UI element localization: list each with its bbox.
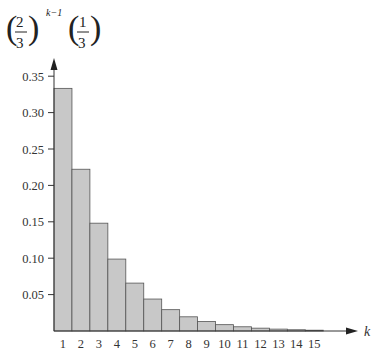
bar	[108, 259, 126, 331]
bar-chart: 0.050.100.150.200.250.300.35 12345678910…	[0, 0, 389, 364]
bars-group	[54, 88, 323, 331]
x-tick-label: 10	[218, 337, 231, 351]
x-tick-label: 15	[308, 337, 321, 351]
y-tick-label: 0.30	[22, 106, 44, 120]
x-tick-label: 7	[168, 337, 174, 351]
x-tick-label: 11	[236, 337, 248, 351]
y-axis: 0.050.100.150.200.250.300.35	[22, 58, 57, 331]
bar	[180, 317, 198, 331]
x-tick-label: 4	[114, 337, 121, 351]
x-axis-label: k	[364, 324, 371, 339]
x-tick-label: 9	[203, 337, 209, 351]
y-axis-arrow-icon	[51, 58, 58, 70]
y-tick-label: 0.20	[22, 179, 44, 193]
y-tick-label: 0.10	[22, 252, 44, 266]
x-tick-label: 3	[96, 337, 102, 351]
y-tick-label: 0.25	[22, 143, 44, 157]
x-tick-label: 8	[186, 337, 192, 351]
x-tick-label: 12	[254, 337, 267, 351]
x-tick-label: 5	[132, 337, 138, 351]
bar	[162, 310, 180, 331]
x-tick-label: 6	[150, 337, 156, 351]
bar	[144, 299, 162, 331]
bar	[216, 325, 234, 331]
y-tick-label: 0.35	[22, 70, 44, 84]
y-tick-label: 0.05	[22, 288, 44, 302]
x-axis-arrow-icon	[346, 328, 358, 335]
bar	[198, 322, 216, 331]
bar	[234, 327, 252, 331]
x-tick-label: 2	[78, 337, 84, 351]
bar	[72, 169, 90, 331]
x-tick-label: 13	[272, 337, 285, 351]
bar	[126, 283, 144, 331]
x-tick-label: 14	[290, 337, 303, 351]
bar	[54, 88, 72, 331]
y-tick-label: 0.15	[22, 215, 44, 229]
bar	[90, 223, 108, 331]
x-tick-label: 1	[60, 337, 66, 351]
